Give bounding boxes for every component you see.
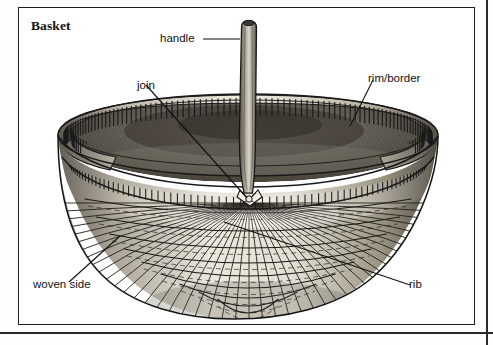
illustration-plate: Basket handle join rim/border woven side… bbox=[0, 0, 493, 345]
label-handle: handle bbox=[160, 33, 195, 45]
page-title: Basket bbox=[31, 18, 71, 34]
label-join: join bbox=[137, 80, 155, 92]
outer-rule-bottom bbox=[0, 332, 493, 334]
label-woven-side: woven side bbox=[33, 279, 91, 291]
basket-illustration bbox=[18, 7, 473, 323]
outer-rule-right bbox=[486, 0, 488, 345]
label-rib: rib bbox=[409, 279, 422, 291]
label-rim-border: rim/border bbox=[368, 73, 420, 85]
